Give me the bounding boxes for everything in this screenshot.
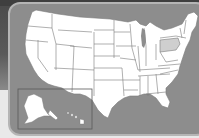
state-hawaii[interactable] [67, 112, 84, 124]
us-map [0, 0, 199, 138]
contiguous-us [25, 10, 198, 118]
alaska-panhandle [48, 110, 58, 120]
state-alaska[interactable] [24, 94, 52, 124]
